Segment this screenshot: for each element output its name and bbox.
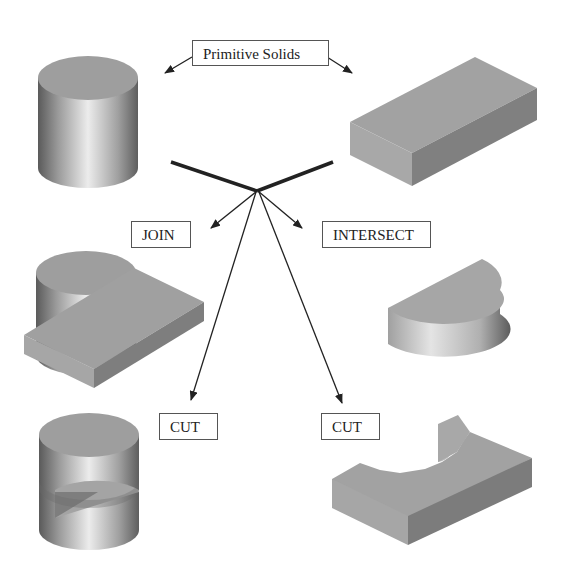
solid-cut-cylinder-result [39, 413, 139, 550]
arrow-to-box [327, 57, 352, 73]
line-from-cylinder [171, 162, 257, 191]
arrow-to-cylinder [165, 57, 192, 73]
solid-intersect-result [388, 259, 511, 357]
combine-lines [171, 162, 333, 191]
solid-box [350, 57, 537, 186]
cut-right-label: CUT [321, 413, 380, 440]
solid-join-result [24, 251, 204, 388]
operation-arrows [191, 191, 342, 403]
solid-cylinder [38, 56, 138, 188]
arrow-cut-left [191, 192, 256, 400]
arrow-intersect [258, 191, 302, 228]
intersect-label: INTERSECT [322, 221, 431, 248]
join-label: JOIN [131, 221, 191, 248]
line-from-box [257, 162, 333, 191]
csg-diagram [0, 0, 566, 585]
cut-left-label: CUT [159, 413, 218, 440]
primitive-solids-label: Primitive Solids [192, 40, 329, 66]
